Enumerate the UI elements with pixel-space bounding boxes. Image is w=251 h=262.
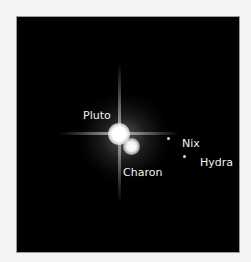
nix-body xyxy=(167,137,170,140)
charon-label: Charon xyxy=(123,167,162,179)
space-image-panel: Pluto Charon Nix Hydra xyxy=(16,16,240,253)
nix-label: Nix xyxy=(182,138,200,150)
diffraction-spike-horizontal xyxy=(59,132,179,135)
hydra-body xyxy=(183,155,186,158)
charon-body xyxy=(123,138,140,155)
pluto-label: Pluto xyxy=(83,110,111,122)
hydra-label: Hydra xyxy=(200,157,233,169)
